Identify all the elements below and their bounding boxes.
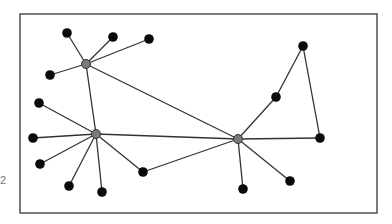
leaf-node-c1 xyxy=(238,184,248,194)
edge-B-C xyxy=(96,134,238,139)
leaf-node-b3 xyxy=(35,159,45,169)
edge-A-a4 xyxy=(50,64,86,75)
leaf-node-c3 xyxy=(315,133,325,143)
edge-C-c3 xyxy=(238,138,320,139)
edge-c4-c5 xyxy=(276,46,303,97)
leaf-node-b5 xyxy=(97,187,107,197)
edge-A-C xyxy=(86,64,238,139)
leaf-node-b6 xyxy=(138,167,148,177)
edge-B-b6 xyxy=(96,134,143,172)
leaf-node-c4 xyxy=(271,92,281,102)
leaf-node-b4 xyxy=(64,181,74,191)
node-layer xyxy=(28,28,325,197)
edge-c5-c3 xyxy=(303,46,320,138)
leaf-node-c2 xyxy=(285,176,295,186)
leaf-node-a1 xyxy=(62,28,72,38)
edge-A-a2 xyxy=(86,37,113,64)
leaf-node-a2 xyxy=(108,32,118,42)
edge-C-c4 xyxy=(238,97,276,139)
leaf-node-c5 xyxy=(298,41,308,51)
leaf-node-b2 xyxy=(28,133,38,143)
leaf-node-b1 xyxy=(34,98,44,108)
hub-node-B xyxy=(92,130,101,139)
edge-B-b5 xyxy=(96,134,102,192)
edge-B-b2 xyxy=(33,134,96,138)
edge-C-c2 xyxy=(238,139,290,181)
edge-b6-C xyxy=(143,139,238,172)
edge-A-a1 xyxy=(67,33,86,64)
edge-C-c1 xyxy=(238,139,243,189)
hub-node-A xyxy=(82,60,91,69)
edge-A-a3 xyxy=(86,39,149,64)
leaf-node-a3 xyxy=(144,34,154,44)
edge-layer xyxy=(33,33,320,192)
edge-B-b1 xyxy=(39,103,96,134)
edge-A-B xyxy=(86,64,96,134)
leaf-node-a4 xyxy=(45,70,55,80)
hub-node-C xyxy=(234,135,243,144)
side-label: 2 xyxy=(0,174,6,186)
network-diagram xyxy=(0,0,392,224)
